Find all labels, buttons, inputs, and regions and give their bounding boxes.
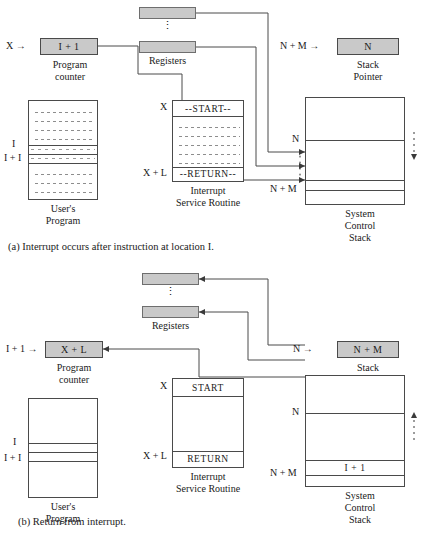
isr-start-text-b: START xyxy=(173,383,243,394)
sp-title-line1-b: Stack xyxy=(328,362,408,374)
user-program-marker-i-a: I xyxy=(12,138,15,150)
figure-interrupt-occurs: X → I + 1 Program counter ⋮ Registers N … xyxy=(0,0,441,262)
register-box-top-a xyxy=(139,7,196,19)
pc-prefix-label-a: X → xyxy=(6,40,26,52)
isr-return-text-a: --RETURN-- xyxy=(173,169,243,180)
stack-marker-n-a: N xyxy=(292,133,299,145)
program-counter-box-b: X + L xyxy=(45,341,103,358)
isr-title-line2-a: Service Routine xyxy=(158,197,258,209)
user-program-dashrows-bottom-a xyxy=(32,166,94,199)
stack-title-line1-b: System xyxy=(315,490,405,502)
user-program-title-line1-a: User's xyxy=(23,203,103,215)
isr-addr-return-a: X + L xyxy=(143,167,167,179)
stack-divider-n-b xyxy=(306,413,404,414)
stack-cell-text-b: I + 1 xyxy=(306,463,404,474)
stack-marker-nm-a: N + M xyxy=(270,183,297,195)
isr-divider-start-a xyxy=(173,116,243,117)
sp-prefix-label-b: N → xyxy=(293,343,313,355)
pc-title-line1-b: Program xyxy=(34,362,114,374)
pc-title-line2-a: counter xyxy=(30,71,110,83)
user-program-title-line2-a: Program xyxy=(23,215,103,227)
user-program-divider-i1-b xyxy=(29,461,97,462)
user-program-title-line1-b: User's xyxy=(23,501,103,513)
stack-marker-nm-b: N + M xyxy=(270,467,297,479)
figure-caption-b: (b) Return from interrupt. xyxy=(18,515,126,528)
stack-title-line2-a: Control xyxy=(315,220,405,232)
stack-divider-mid-a xyxy=(306,180,404,181)
stack-divider-cell-top-b xyxy=(306,460,404,461)
isr-dashrows-a xyxy=(176,119,240,165)
user-program-divider-mid-b xyxy=(29,452,97,453)
stack-title-line2-b: Control xyxy=(315,502,405,514)
isr-title-line1-a: Interrupt xyxy=(168,185,248,197)
stack-divider-nm-a xyxy=(306,190,404,191)
isr-addr-start-b: X xyxy=(160,380,167,392)
user-program-box-a xyxy=(28,100,98,200)
user-program-divider-i-a xyxy=(29,145,97,146)
figure-caption-a: (a) Interrupt occurs after instruction a… xyxy=(8,240,214,253)
isr-divider-return-a xyxy=(173,167,243,168)
stack-pointer-box-b: N + M xyxy=(337,341,399,358)
isr-divider-return-b xyxy=(173,451,243,452)
isr-box-a: --START-- --RETURN-- xyxy=(172,100,244,182)
user-program-dashrows-top-a xyxy=(32,104,94,141)
user-program-marker-i1-a: I + I xyxy=(4,152,21,164)
isr-addr-start-a: X xyxy=(160,101,167,113)
isr-start-text-a: --START-- xyxy=(173,104,243,115)
sp-prefix-label-a: N + M → xyxy=(280,40,319,52)
pc-title-line2-b: counter xyxy=(34,374,114,386)
stack-pointer-box-a: N xyxy=(337,38,399,55)
isr-title-line1-b: Interrupt xyxy=(168,471,248,483)
isr-divider-start-b xyxy=(173,396,243,397)
registers-label-b: Registers xyxy=(132,320,209,332)
pc-prefix-label-b: I + 1 → xyxy=(6,343,37,355)
stack-divider-nm-b xyxy=(306,475,404,476)
stack-title-line3-b: Stack xyxy=(315,514,405,526)
user-program-dash-i-a xyxy=(31,149,95,150)
registers-dots-a: ⋮ xyxy=(139,23,196,27)
isr-addr-return-b: X + L xyxy=(143,450,167,462)
register-box-bottom-a xyxy=(139,41,196,53)
registers-dots-b: ⋮ xyxy=(142,289,199,293)
isr-return-text-b: RETURN xyxy=(173,454,243,465)
user-program-dash-i1-a xyxy=(31,158,95,159)
user-program-divider-mid-a xyxy=(29,154,97,155)
stack-title-line3-a: Stack xyxy=(315,232,405,244)
user-program-divider-i1-a xyxy=(29,163,97,164)
pc-title-line1-a: Program xyxy=(30,59,110,71)
sp-title-line2-a: Pointer xyxy=(328,71,408,83)
isr-box-b: START RETURN xyxy=(172,378,244,468)
register-box-top-b xyxy=(142,273,199,285)
register-box-bottom-b xyxy=(142,306,199,318)
registers-label-a: Registers xyxy=(129,55,206,67)
user-program-divider-i-b xyxy=(29,443,97,444)
sp-title-line1-a: Stack xyxy=(328,59,408,71)
stack-divider-n-a xyxy=(306,140,404,141)
isr-title-line2-b: Service Routine xyxy=(158,483,258,495)
system-control-stack-box-b: I + 1 xyxy=(305,375,405,487)
system-control-stack-box-a xyxy=(305,97,405,205)
user-program-box-b xyxy=(28,398,98,498)
stack-marker-n-b: N xyxy=(292,406,299,418)
figure-return-from-interrupt: I + 1 → X + L Program counter ⋮ Register… xyxy=(0,262,441,544)
user-program-marker-i-b: I xyxy=(13,436,16,448)
stack-title-line1-a: System xyxy=(315,208,405,220)
user-program-marker-i1-b: I + I xyxy=(4,452,21,464)
program-counter-box-a: I + 1 xyxy=(40,38,98,55)
